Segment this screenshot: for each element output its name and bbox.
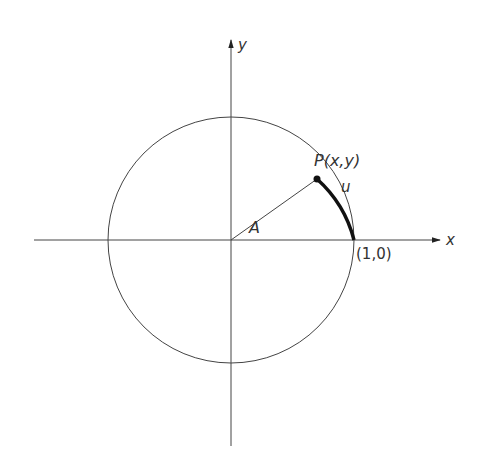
point-label: P(x,y) (314, 151, 360, 170)
radius-line (231, 179, 317, 240)
y-axis-label: y (237, 36, 248, 54)
point-p (314, 176, 321, 183)
unit-point-label: (1,0) (356, 245, 392, 263)
angle-label: A (248, 218, 260, 237)
arc-label: u (341, 178, 351, 196)
x-axis-label: x (445, 231, 455, 249)
unit-circle-diagram: y x P(x,y) u A (1,0) (0, 0, 480, 469)
